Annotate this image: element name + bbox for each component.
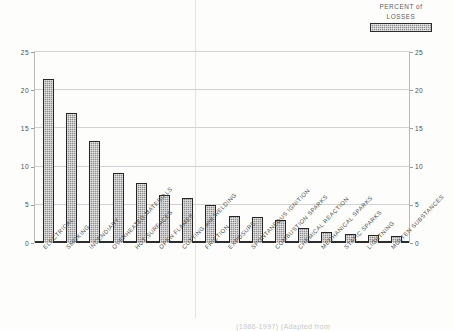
y-tick-mark-right-10 (410, 167, 413, 168)
y-tick-label-left-10: 10 (21, 163, 29, 170)
y-tick-mark-left-25 (31, 52, 34, 53)
y-tick-mark-left-5 (31, 205, 34, 206)
y-tick-mark-right-25 (410, 52, 413, 53)
y-tick-label-left-20: 20 (21, 87, 29, 94)
y-tick-mark-left-0 (31, 243, 34, 244)
y-tick-mark-right-15 (410, 128, 413, 129)
bar-slot (246, 52, 269, 243)
y-tick-label-right-20: 20 (415, 87, 423, 94)
legend-label-line1: PERCENT of (358, 2, 444, 12)
y-tick-label-left-0: 0 (25, 240, 29, 247)
source-note: (1986-1997) (Adapted from (236, 322, 330, 331)
bar-incendiary[interactable] (89, 141, 100, 243)
y-tick-label-right-15: 15 (415, 125, 423, 132)
bar-slot (60, 52, 83, 243)
bar-electrical[interactable] (43, 79, 54, 243)
y-tick-label-right-0: 0 (415, 240, 419, 247)
y-axis-left-spine (34, 52, 35, 243)
y-tick-label-right-5: 5 (415, 201, 419, 208)
bar-overheated-materials[interactable] (113, 173, 124, 243)
bar-slot (385, 52, 408, 243)
y-tick-mark-right-5 (410, 205, 413, 206)
bar-slot (37, 52, 60, 243)
x-axis-category-labels: ELECTRICALSMOKINGINCENDIARYOVERHEATED MA… (34, 246, 410, 318)
y-axis-right-spine (409, 52, 410, 243)
chart-legend: PERCENT of LOSSES (358, 2, 444, 32)
y-tick-label-right-10: 10 (415, 163, 423, 170)
y-tick-mark-left-15 (31, 128, 34, 129)
y-tick-label-right-25: 25 (415, 49, 423, 56)
y-tick-mark-left-10 (31, 167, 34, 168)
bar-slot (107, 52, 130, 243)
bar-slot (223, 52, 246, 243)
legend-label-line2: LOSSES (358, 12, 444, 22)
y-tick-mark-right-20 (410, 90, 413, 91)
bar-slot (83, 52, 106, 243)
y-tick-mark-left-20 (31, 90, 34, 91)
y-tick-label-left-5: 5 (25, 201, 29, 208)
legend-swatch-icon (370, 23, 432, 32)
y-tick-mark-right-0 (410, 243, 413, 244)
y-tick-label-left-25: 25 (21, 49, 29, 56)
y-tick-label-left-15: 15 (21, 125, 29, 132)
